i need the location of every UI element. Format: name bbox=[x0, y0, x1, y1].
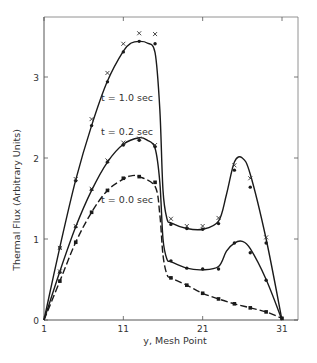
square-marker bbox=[201, 291, 205, 295]
square-marker bbox=[280, 317, 284, 321]
plot-frame bbox=[44, 17, 298, 320]
curve-label: t = 1.0 sec bbox=[101, 92, 153, 103]
square-marker bbox=[264, 310, 268, 314]
y-tick-label: 1 bbox=[33, 235, 39, 245]
dot-marker bbox=[169, 259, 172, 262]
square-marker bbox=[153, 181, 157, 185]
x-tick-label: 31 bbox=[276, 324, 287, 334]
square-marker bbox=[169, 276, 173, 280]
x-marker bbox=[121, 42, 125, 46]
square-marker bbox=[233, 302, 237, 306]
dot-marker bbox=[106, 80, 109, 83]
dot-marker bbox=[249, 185, 252, 188]
x-tick-label: 21 bbox=[197, 324, 208, 334]
y-tick-label: 2 bbox=[33, 154, 39, 164]
dot-marker bbox=[185, 266, 188, 269]
dot-marker bbox=[264, 241, 267, 244]
square-marker bbox=[58, 279, 62, 283]
x-marker bbox=[153, 32, 157, 36]
thermal-flux-chart: 11121310123 t = 1.0 sect = 0.2 sect = 0.… bbox=[0, 0, 317, 363]
square-marker bbox=[248, 306, 252, 310]
x-tick-label: 11 bbox=[118, 324, 129, 334]
axis-ticks: 11121310123 bbox=[33, 17, 298, 334]
square-marker bbox=[106, 189, 110, 193]
dot-marker bbox=[169, 223, 172, 226]
series-curve bbox=[44, 41, 282, 320]
dot-marker bbox=[249, 251, 252, 254]
dot-marker bbox=[201, 267, 204, 270]
square-marker bbox=[217, 297, 221, 301]
dot-marker bbox=[217, 267, 220, 270]
dot-marker bbox=[138, 40, 141, 43]
x-marker bbox=[169, 217, 173, 221]
curve-label: t = 0.2 sec bbox=[101, 126, 153, 137]
square-marker bbox=[185, 283, 189, 287]
dot-marker bbox=[153, 42, 156, 45]
curve-labels: t = 1.0 sect = 0.2 sect = 0.0 sec bbox=[101, 92, 153, 204]
y-tick-label: 3 bbox=[33, 73, 39, 83]
curve-label: t = 0.0 sec bbox=[101, 194, 153, 205]
dot-marker bbox=[217, 222, 220, 225]
dot-marker bbox=[233, 241, 236, 244]
square-marker bbox=[90, 210, 94, 214]
square-marker bbox=[74, 240, 78, 244]
data-series bbox=[44, 31, 284, 320]
dot-marker bbox=[122, 50, 125, 53]
x-marker bbox=[105, 71, 109, 75]
x-marker bbox=[137, 31, 141, 35]
x-marker bbox=[201, 224, 205, 228]
dot-marker bbox=[90, 124, 93, 127]
x-tick-label: 1 bbox=[41, 324, 47, 334]
square-marker bbox=[122, 176, 126, 180]
x-axis-label: y, Mesh Point bbox=[143, 335, 207, 346]
dot-marker bbox=[264, 279, 267, 282]
dot-marker bbox=[233, 168, 236, 171]
y-axis-label: Thermal Flux (Arbitrary Units) bbox=[11, 129, 22, 272]
square-marker bbox=[137, 175, 141, 179]
dot-marker bbox=[201, 228, 204, 231]
series-t-1-0-sec bbox=[44, 31, 282, 320]
y-tick-label: 0 bbox=[33, 316, 39, 326]
